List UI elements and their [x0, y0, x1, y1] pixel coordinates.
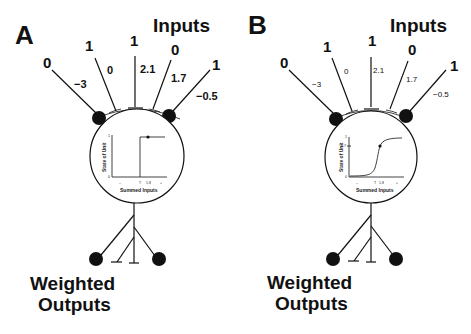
input-line-b-4 — [390, 61, 408, 109]
output-knob-b-1 — [326, 252, 340, 266]
operating-point-a — [146, 135, 149, 138]
panel-a: A Inputs 0 1 1 0 1 −3 0 2.1 1.7 −0.5 — [15, 15, 220, 315]
axon-branch-a-1 — [101, 215, 134, 255]
input-line-b-2 — [332, 58, 352, 111]
outputs-title-b-line1: Weighted — [267, 272, 352, 293]
axon-branch-b-1 — [338, 215, 371, 255]
input-line-b-1 — [289, 70, 333, 113]
y-tick-b-1: 1 — [345, 135, 347, 139]
inputs-title-b: Inputs — [390, 15, 447, 36]
x-tick-a-value: 1.8 — [146, 181, 151, 185]
outputs-title-a-line2: Outputs — [38, 294, 111, 315]
input-value-a-2: 1 — [85, 37, 93, 54]
weight-b-2: 0 — [344, 67, 349, 76]
x-tick-b-plus: + — [396, 181, 398, 185]
input-value-b-5: 1 — [450, 57, 458, 74]
input-value-b-3: 1 — [368, 32, 376, 49]
weight-a-2: 0 — [107, 64, 113, 76]
outputs-title-b-line2: Outputs — [275, 293, 348, 314]
weight-b-5: −0.5 — [433, 90, 449, 99]
output-knob-b-2 — [389, 252, 403, 266]
axon-branch-b-2 — [354, 237, 371, 261]
weight-a-1: −3 — [74, 78, 87, 90]
weight-a-4: 1.7 — [171, 72, 186, 84]
input-line-a-1 — [52, 70, 96, 113]
outputs-title-a-line1: Weighted — [30, 273, 115, 294]
axon-branch-a-2 — [117, 237, 134, 262]
weight-b-3: 2.1 — [373, 66, 385, 75]
y-axis-label-a: State of Unit — [101, 142, 107, 172]
operating-point-b — [378, 144, 381, 147]
weight-b-4: 1.7 — [406, 75, 418, 84]
y-tick-b-0: 0 — [345, 175, 347, 179]
panel-letter-a: A — [15, 20, 34, 50]
neuron-diagram: A Inputs 0 1 1 0 1 −3 0 2.1 1.7 −0.5 — [0, 0, 471, 334]
input-line-a-4 — [153, 60, 171, 109]
x-tick-b-minus: – — [356, 181, 358, 185]
x-tick-a-minus: – — [119, 181, 121, 185]
x-tick-b-value: 1.8 — [379, 181, 384, 185]
input-value-b-2: 1 — [323, 38, 331, 55]
y-tick-a-0: 0 — [108, 175, 110, 179]
output-knob-a-2 — [152, 252, 166, 266]
x-axis-label-a: Summed Inputs — [120, 187, 158, 193]
panel-b: B Inputs 0 1 1 0 1 −3 0 2.1 1.7 −0.5 — [248, 10, 458, 314]
axon-branch-a-3 — [134, 227, 155, 256]
input-value-a-3: 1 — [130, 32, 138, 49]
input-value-b-4: 0 — [408, 41, 416, 58]
x-axis-label-b: Summed Inputs — [356, 187, 394, 193]
inputs-title-a: Inputs — [153, 15, 210, 36]
y-axis-label-b: State of Unit — [338, 142, 344, 172]
input-value-a-4: 0 — [171, 41, 179, 58]
x-tick-a-plus: + — [160, 181, 162, 185]
y-tick-a-1: 1 — [108, 134, 110, 138]
input-value-b-1: 0 — [280, 54, 288, 71]
output-knob-a-1 — [89, 252, 103, 266]
weight-a-3: 2.1 — [140, 63, 155, 75]
weight-b-1: −3 — [312, 80, 322, 89]
input-value-a-1: 0 — [43, 54, 51, 71]
panel-letter-b: B — [248, 10, 267, 40]
weight-a-5: −0.5 — [196, 90, 218, 102]
input-value-a-5: 1 — [212, 56, 220, 73]
axon-branch-b-3 — [371, 226, 393, 255]
